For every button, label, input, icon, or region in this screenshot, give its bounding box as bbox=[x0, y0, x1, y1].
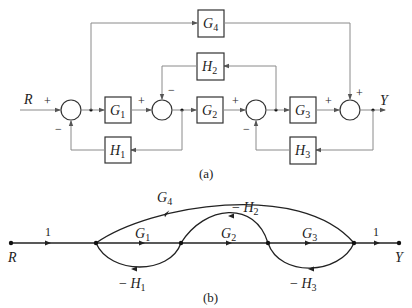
signal-flow-graph: R Y 1 1 G1 G2 G3 G4 − H2 − H1 − H3 (b) bbox=[7, 190, 405, 305]
feedback-line-h1-sum1 bbox=[71, 121, 105, 150]
sfg-node-r bbox=[9, 241, 13, 245]
sfg-gain-in: 1 bbox=[45, 225, 51, 239]
sfg-node-5 bbox=[352, 241, 356, 245]
figure: R + − G1 + − H1 G2 + − bbox=[0, 0, 412, 308]
sum3-minus-sign: − bbox=[243, 122, 250, 136]
sfg-node-3 bbox=[179, 241, 183, 245]
output-label-y: Y bbox=[380, 93, 390, 108]
sfg-node-4 bbox=[266, 241, 270, 245]
sfg-label-g2: G2 bbox=[221, 226, 236, 243]
sum4-plus-sign-top: + bbox=[356, 86, 363, 100]
sfg-label-g3: G3 bbox=[302, 226, 317, 243]
summing-junction-2 bbox=[152, 100, 172, 120]
sfg-arrow-g3 bbox=[305, 241, 311, 246]
sfg-node-2 bbox=[94, 241, 98, 245]
sfg-branch-h3 bbox=[268, 243, 354, 268]
sfg-arrow-g1 bbox=[139, 241, 145, 246]
summing-junction-3 bbox=[246, 100, 266, 120]
sfg-label-h1: − H1 bbox=[119, 276, 146, 293]
sfg-label-g4: G4 bbox=[157, 190, 172, 207]
caption-a: (a) bbox=[199, 166, 213, 181]
sum3-plus-sign: + bbox=[232, 94, 239, 108]
sum1-plus-sign: + bbox=[44, 94, 51, 108]
sfg-label-h2: − H2 bbox=[232, 200, 259, 217]
sum1-minus-sign: − bbox=[55, 122, 62, 136]
summing-junction-1 bbox=[61, 100, 81, 120]
sfg-label-r: R bbox=[7, 250, 17, 265]
sum2-minus-sign: − bbox=[168, 83, 175, 97]
sfg-label-g1: G1 bbox=[135, 226, 150, 243]
feedback-line-h3-sum3 bbox=[256, 121, 290, 150]
sfg-node-y bbox=[397, 241, 401, 245]
sfg-branch-h1 bbox=[96, 243, 181, 267]
sfg-label-y: Y bbox=[395, 250, 405, 265]
sfg-arrow-in bbox=[45, 241, 51, 246]
sfg-gain-out: 1 bbox=[373, 225, 379, 239]
summing-junction-4 bbox=[340, 100, 360, 120]
sfg-label-h3: − H3 bbox=[290, 276, 317, 293]
sum2-plus-sign: + bbox=[138, 94, 145, 108]
sfg-arrow-h3 bbox=[308, 267, 314, 272]
sum4-plus-sign: + bbox=[325, 94, 332, 108]
block-diagram: R + − G1 + − H1 G2 + − bbox=[20, 10, 390, 181]
caption-b: (b) bbox=[203, 290, 218, 305]
feedforward-line-g4-sum4 bbox=[224, 23, 350, 99]
sfg-arrow-out bbox=[374, 241, 380, 246]
input-label-r: R bbox=[23, 92, 33, 107]
